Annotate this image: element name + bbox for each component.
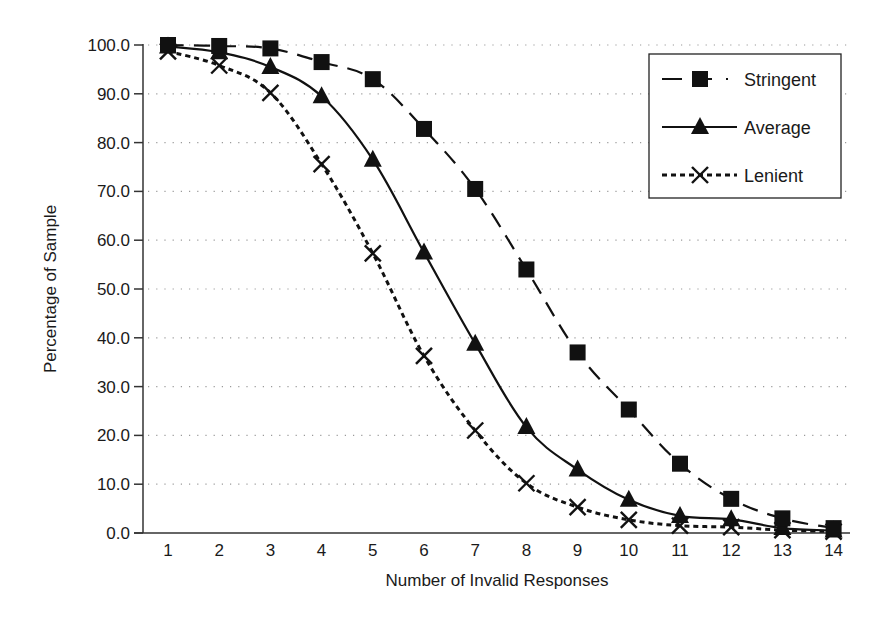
data-point-stringent — [672, 456, 688, 472]
x-tick-label: 10 — [619, 541, 638, 560]
x-tick-label: 6 — [419, 541, 428, 560]
data-point-lenient — [314, 156, 330, 172]
legend: StringentAverageLenient — [649, 54, 841, 198]
x-tick-label: 1 — [163, 541, 172, 560]
data-point-stringent — [262, 40, 278, 56]
x-tick-label: 3 — [266, 541, 275, 560]
data-point-average — [620, 490, 638, 507]
y-axis-ticks: 0.010.020.030.040.050.060.070.080.090.01… — [87, 36, 143, 543]
data-point-lenient — [416, 348, 432, 364]
y-tick-label: 80.0 — [97, 134, 130, 153]
data-point-stringent — [416, 121, 432, 137]
data-point-stringent — [518, 261, 534, 277]
data-point-stringent — [365, 71, 381, 87]
data-point-lenient — [518, 475, 534, 491]
y-tick-label: 90.0 — [97, 85, 130, 104]
x-tick-label: 8 — [522, 541, 531, 560]
x-tick-label: 11 — [671, 541, 689, 560]
data-point-lenient — [262, 85, 278, 101]
y-tick-label: 40.0 — [97, 329, 130, 348]
y-tick-label: 0.0 — [106, 524, 130, 543]
x-tick-label: 12 — [722, 541, 741, 560]
y-tick-label: 50.0 — [97, 280, 130, 299]
x-tick-label: 2 — [214, 541, 223, 560]
x-tick-label: 9 — [573, 541, 582, 560]
y-tick-label: 60.0 — [97, 231, 130, 250]
data-point-lenient — [365, 245, 381, 261]
y-tick-label: 20.0 — [97, 426, 130, 445]
x-tick-label: 13 — [773, 541, 792, 560]
data-point-stringent — [723, 491, 739, 507]
data-point-lenient — [467, 423, 483, 439]
x-tick-label: 4 — [317, 541, 326, 560]
data-point-stringent — [314, 54, 330, 70]
data-point-stringent — [570, 344, 586, 360]
data-point-average — [466, 334, 484, 351]
x-tick-label: 7 — [470, 541, 479, 560]
legend-marker-stringent — [692, 71, 708, 87]
legend-label-stringent: Stringent — [744, 70, 816, 90]
data-point-lenient — [211, 57, 227, 73]
data-point-stringent — [160, 37, 176, 53]
legend-label-lenient: Lenient — [744, 166, 803, 186]
line-chart: 0.010.020.030.040.050.060.070.080.090.01… — [0, 0, 889, 618]
y-tick-label: 10.0 — [97, 475, 130, 494]
data-point-stringent — [621, 402, 637, 418]
data-point-average — [313, 86, 331, 103]
data-point-lenient — [570, 499, 586, 515]
y-axis-title: Percentage of Sample — [41, 205, 60, 373]
data-point-stringent — [211, 38, 227, 54]
y-tick-label: 70.0 — [97, 182, 130, 201]
data-point-average — [569, 460, 587, 477]
legend-label-average: Average — [744, 118, 811, 138]
x-axis-title: Number of Invalid Responses — [385, 571, 608, 590]
y-tick-label: 100.0 — [87, 36, 130, 55]
data-point-stringent — [467, 181, 483, 197]
data-point-average — [364, 150, 382, 167]
y-tick-label: 30.0 — [97, 378, 130, 397]
x-axis-ticks: 1234567891011121314 — [163, 541, 843, 560]
x-tick-label: 5 — [368, 541, 377, 560]
data-point-stringent — [774, 510, 790, 526]
x-tick-label: 14 — [824, 541, 843, 560]
data-point-stringent — [826, 520, 842, 536]
data-point-average — [415, 242, 433, 259]
